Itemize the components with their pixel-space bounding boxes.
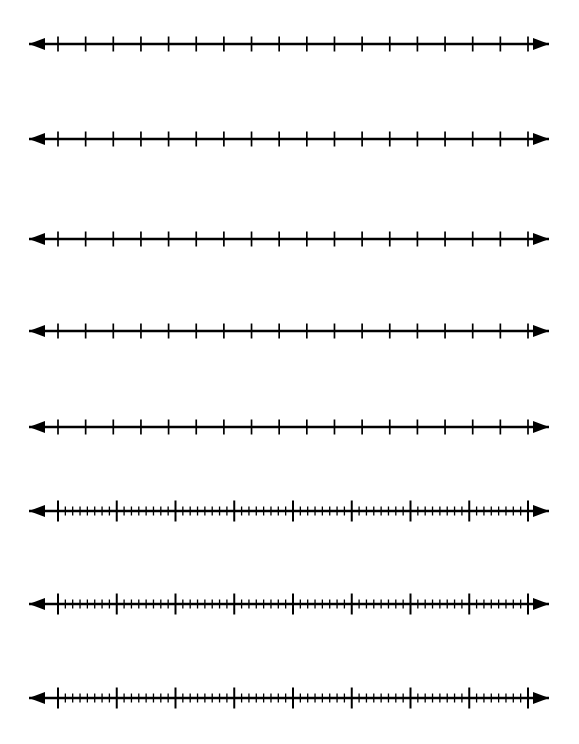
number-line-2 bbox=[0, 119, 579, 159]
arrowhead-right-icon bbox=[533, 38, 549, 50]
arrowhead-left-icon bbox=[29, 692, 45, 704]
arrowhead-left-icon bbox=[29, 38, 45, 50]
number-line-8 bbox=[0, 678, 579, 718]
arrowhead-left-icon bbox=[29, 421, 45, 433]
number-line-3-graphic bbox=[0, 219, 579, 259]
arrowhead-right-icon bbox=[533, 325, 549, 337]
number-line-7 bbox=[0, 584, 579, 624]
worksheet-page bbox=[0, 0, 579, 744]
arrowhead-left-icon bbox=[29, 598, 45, 610]
number-line-5 bbox=[0, 407, 579, 447]
arrowhead-right-icon bbox=[533, 598, 549, 610]
arrowhead-right-icon bbox=[533, 421, 549, 433]
number-line-4 bbox=[0, 311, 579, 351]
number-line-1 bbox=[0, 24, 579, 64]
arrowhead-left-icon bbox=[29, 325, 45, 337]
arrowhead-right-icon bbox=[533, 133, 549, 145]
number-line-2-graphic bbox=[0, 119, 579, 159]
arrowhead-left-icon bbox=[29, 505, 45, 517]
arrowhead-right-icon bbox=[533, 233, 549, 245]
arrowhead-right-icon bbox=[533, 505, 549, 517]
arrowhead-left-icon bbox=[29, 233, 45, 245]
number-line-5-graphic bbox=[0, 407, 579, 447]
number-line-6-graphic bbox=[0, 491, 579, 531]
number-line-6 bbox=[0, 491, 579, 531]
arrowhead-right-icon bbox=[533, 692, 549, 704]
number-line-1-graphic bbox=[0, 24, 579, 64]
number-line-7-graphic bbox=[0, 584, 579, 624]
arrowhead-left-icon bbox=[29, 133, 45, 145]
number-line-3 bbox=[0, 219, 579, 259]
number-line-8-graphic bbox=[0, 678, 579, 718]
number-line-4-graphic bbox=[0, 311, 579, 351]
